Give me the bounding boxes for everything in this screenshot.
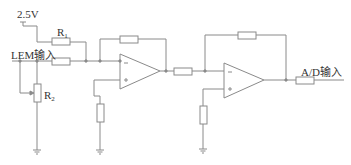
stage2-feedback: [205, 32, 286, 80]
input-label: LEM输入: [11, 50, 56, 61]
output-label: A/D输入: [301, 67, 342, 78]
interstage-resistor: [174, 68, 192, 75]
opamp-2: [224, 63, 296, 98]
opamp1-ground-resistor: [94, 80, 120, 154]
output-resistor: [296, 77, 314, 84]
opamp2-ground-resistor: [199, 89, 224, 153]
supply-terminal: [20, 22, 52, 42]
supply-label: 2.5V: [17, 9, 39, 20]
schematic-drawing: [0, 0, 351, 165]
stage1-feedback: [100, 36, 166, 71]
r2-label: R2: [44, 90, 55, 103]
circuit-diagram: 2.5V R1 LEM输入 R2 A/D输入: [0, 0, 351, 165]
r1-wire: [70, 42, 86, 61]
r2-potentiometer: [20, 61, 41, 154]
r1-label: R1: [57, 27, 68, 40]
